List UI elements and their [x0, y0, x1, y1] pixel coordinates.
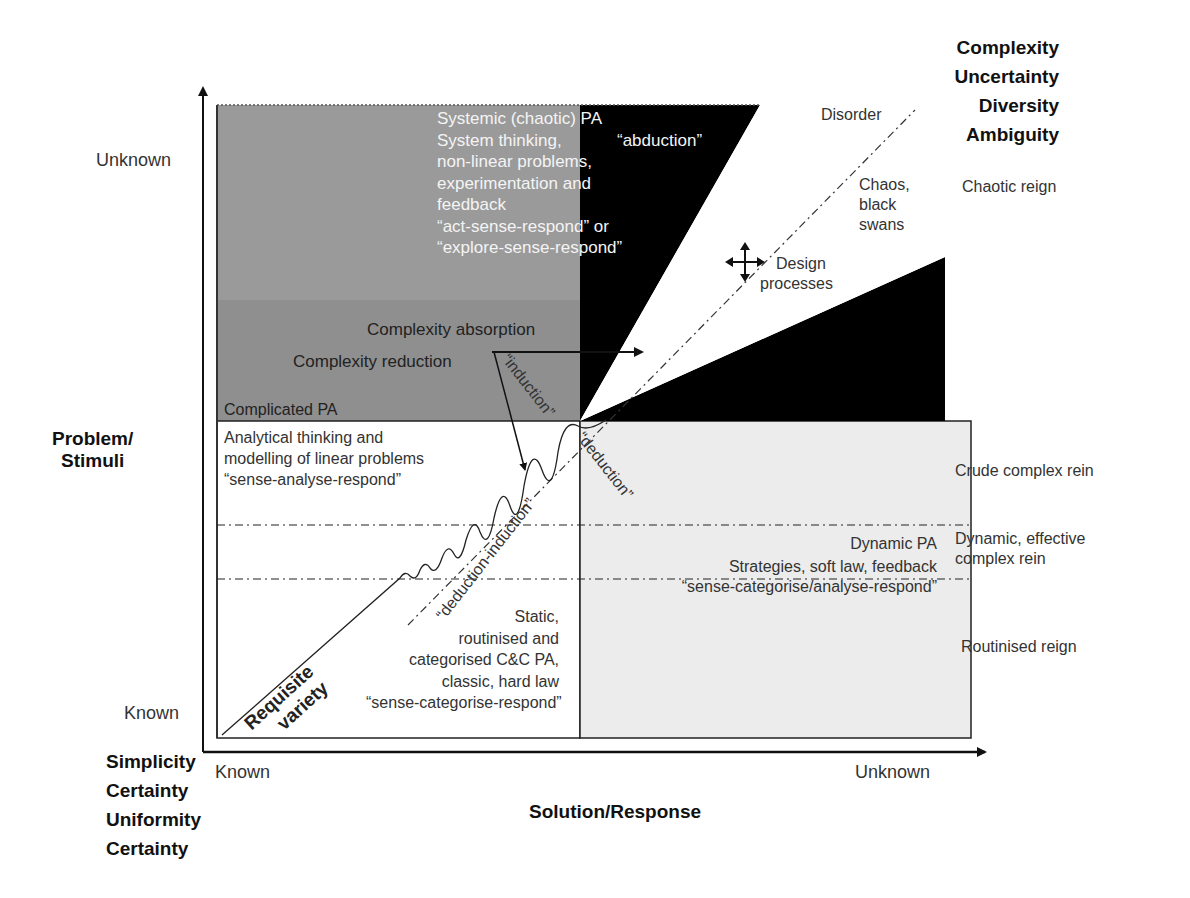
dynamic-pa-text: Dynamic PA Strategies, soft law, feedbac… — [600, 532, 937, 596]
complexity-absorption-label: Complexity absorption — [367, 320, 535, 339]
y-axis-title: Problem/ Stimuli — [52, 428, 133, 472]
dynamic-effective-rein-label: Dynamic, effective complex rein — [955, 529, 1085, 569]
design-processes-label: Design processes — [776, 254, 833, 294]
y-known-label: Known — [124, 704, 179, 723]
chaos-label: Chaos, black swans — [859, 175, 910, 235]
static-pa-text: Static, routinised and categorised C&C P… — [366, 606, 559, 714]
routinised-reign-label: Routinised reign — [961, 637, 1077, 656]
disorder-label: Disorder — [821, 105, 881, 124]
x-axis-title: Solution/Response — [529, 801, 701, 823]
systemic-pa-text: Systemic (chaotic) PA System thinking, n… — [437, 108, 622, 259]
chaotic-reign-label: Chaotic reign — [962, 177, 1056, 196]
complicated-pa-text: Analytical thinking and modelling of lin… — [224, 427, 424, 490]
complexity-reduction-label: Complexity reduction — [293, 352, 452, 371]
x-unknown-label: Unknown — [855, 763, 930, 782]
complicated-pa-title: Complicated PA — [224, 400, 338, 419]
complexity-dimensions: Complexity Uncertainty Diversity Ambigui… — [900, 33, 1059, 149]
crude-complex-rein-label: Crude complex rein — [955, 461, 1094, 480]
x-known-label: Known — [215, 763, 270, 782]
y-unknown-label: Unknown — [96, 151, 171, 170]
simplicity-dimensions: Simplicity Certainty Uniformity Certaint… — [106, 747, 201, 863]
abduction-label: “abduction” — [617, 131, 702, 150]
